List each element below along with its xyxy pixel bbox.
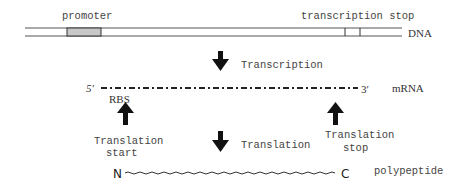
- translation-label: Translation: [241, 139, 310, 151]
- c-terminus-label: C: [341, 167, 349, 181]
- transcription-stop-label: transcription stop: [301, 10, 414, 22]
- translation-arrow-icon: [212, 131, 229, 152]
- mrna-5prime-label: 5′: [86, 82, 95, 94]
- polypeptide-label: polypeptide: [374, 165, 443, 177]
- mrna-3prime-label: 3′: [361, 83, 369, 95]
- promoter-label: promoter: [62, 10, 112, 22]
- transcription-label: Transcription: [241, 59, 323, 71]
- gene-expression-diagram: promoter transcription stop DNA Transcri…: [0, 0, 463, 192]
- transcription-arrow-icon: [212, 51, 229, 71]
- mrna-label: mRNA: [392, 82, 424, 94]
- translation-start-label-line2: start: [106, 147, 138, 159]
- dna-strand: [25, 28, 402, 36]
- polypeptide-chain: [125, 172, 335, 174]
- translation-stop-arrow-icon: [327, 102, 344, 125]
- translation-start-arrow-icon: [117, 102, 134, 125]
- translation-stop-label-line2: stop: [343, 142, 368, 154]
- translation-start-label-line1: Translation: [94, 135, 163, 147]
- promoter-box: [67, 28, 101, 36]
- dna-label: DNA: [408, 27, 432, 39]
- n-terminus-label: N: [113, 167, 122, 181]
- translation-stop-label-line1: Translation: [325, 129, 394, 141]
- rbs-label: RBS: [109, 93, 130, 105]
